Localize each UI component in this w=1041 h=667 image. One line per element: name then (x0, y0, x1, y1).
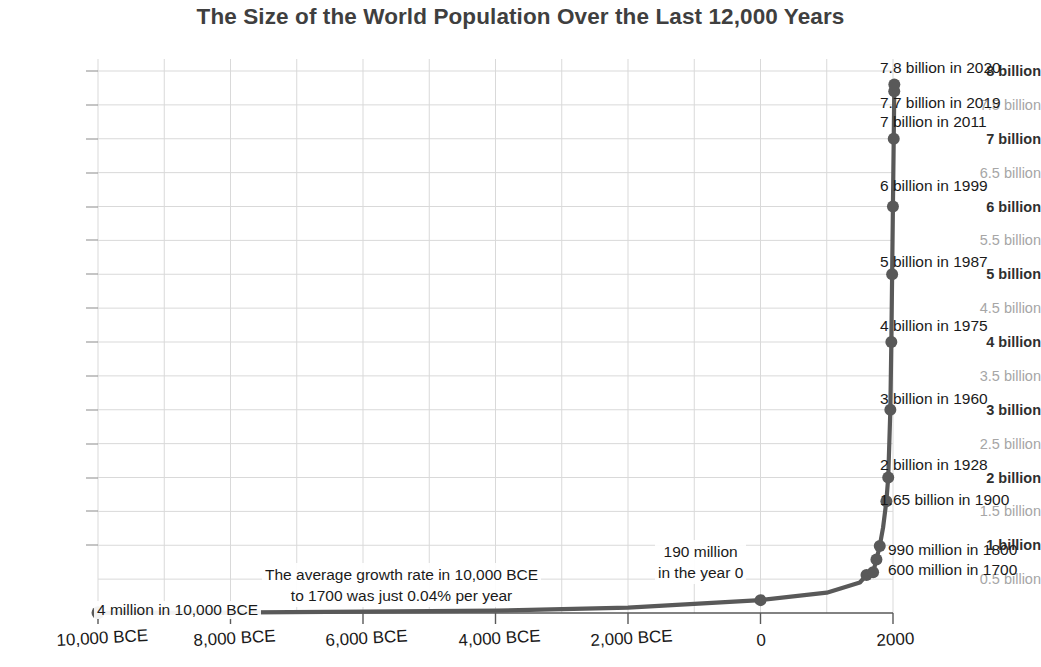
x-axis-tick-label: 0 (756, 630, 767, 650)
vertical-gridlines (98, 59, 893, 613)
data-point-marker (888, 133, 900, 145)
point-label-1999: 6 billion in 1999 (880, 177, 988, 195)
year-zero-annotation: 190 million in the year 0 (655, 540, 746, 584)
point-label-1700: 600 million in 1700 (888, 561, 1017, 579)
y-axis-tick-mark (86, 172, 98, 173)
y-axis-tick-label: 4.5 billion (945, 301, 1041, 315)
data-point-marker (874, 540, 886, 552)
point-label-1928: 2 billion in 1928 (880, 456, 988, 474)
y-axis-tick-mark (86, 342, 98, 343)
y-axis-tick-mark (86, 409, 98, 410)
point-label-1987: 5 billion in 1987 (880, 253, 988, 271)
point-label-2019: 7.7 billion in 2019 (880, 94, 1001, 112)
growth-rate-line-2: to 1700 was just 0.04% per year (265, 585, 538, 606)
population-line (98, 85, 894, 613)
y-axis-tick-label: 3.5 billion (945, 369, 1041, 383)
y-axis-tick-mark (86, 206, 98, 207)
y-axis-tick-label: 7 billion (945, 132, 1041, 146)
y-axis-tick-mark (86, 138, 98, 139)
point-label-1900: 1.65 billion in 1900 (880, 491, 1009, 509)
y-axis-tick-mark (86, 104, 98, 105)
year-zero-line-2: in the year 0 (658, 562, 743, 583)
y-axis-tick-mark (86, 511, 98, 512)
year-zero-line-1: 190 million (658, 541, 743, 562)
y-axis-tick-mark (86, 274, 98, 275)
data-point-marker (888, 79, 900, 91)
y-axis-tick-mark (86, 71, 98, 72)
point-label-1975: 4 billion in 1975 (880, 317, 988, 335)
y-axis-tick-mark (86, 308, 98, 309)
growth-rate-line-1: The average growth rate in 10,000 BCE (265, 564, 538, 585)
x-axis-tick-label: 2000 (876, 629, 915, 651)
y-axis-tick-mark (86, 443, 98, 444)
y-axis-tick-label: 5.5 billion (945, 233, 1041, 247)
origin-annotation: 4 million in 10,000 BCE (94, 601, 261, 619)
y-axis-tick-mark (86, 375, 98, 376)
point-label-2020: 7.8 billion in 2020 (880, 59, 1001, 77)
y-axis-tick-mark (86, 240, 98, 241)
y-axis-tick-mark (86, 545, 98, 546)
growth-rate-annotation: The average growth rate in 10,000 BCE to… (262, 563, 541, 607)
data-point-marker (870, 553, 882, 565)
data-point-marker (867, 566, 879, 578)
population-chart: The Size of the World Population Over th… (0, 0, 1041, 667)
y-axis-tick-label: 6 billion (945, 200, 1041, 214)
y-axis-tick-label: 2.5 billion (945, 437, 1041, 451)
y-axis-tick-label: 4 billion (945, 335, 1041, 349)
y-axis-tick-mark (86, 477, 98, 478)
point-label-1800: 990 million in 1800 (888, 541, 1017, 559)
data-point-marker (885, 336, 897, 348)
data-point-marker (887, 201, 899, 213)
point-label-2011: 7 billion in 2011 (880, 113, 987, 131)
data-point-marker (755, 594, 767, 606)
point-label-1960: 3 billion in 1960 (880, 390, 988, 408)
